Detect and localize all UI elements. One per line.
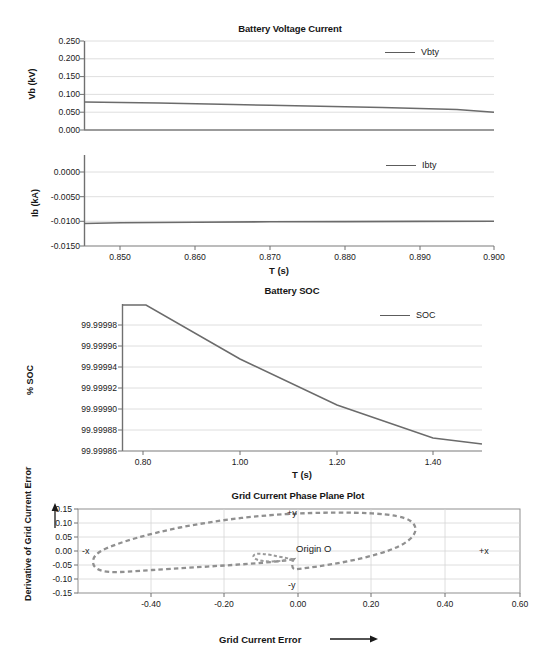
legend-label: Vbty — [421, 47, 439, 57]
x-axis-arrow — [330, 636, 378, 643]
y-tick: 99.99988 — [55, 425, 117, 435]
x-tick: 0.860 — [175, 252, 215, 262]
y-tick: 0.100 — [40, 89, 80, 99]
y-tick: 99.99994 — [55, 362, 117, 372]
chart-title: Grid Current Phase Plane Plot — [198, 490, 398, 501]
y-tick: 99.99986 — [55, 446, 117, 456]
legend-ibty: Ibty — [386, 160, 437, 170]
legend-label: SOC — [416, 310, 436, 320]
y-tick: 99.99996 — [55, 341, 117, 351]
x-tick: 0.890 — [400, 252, 440, 262]
chart-title: Battery Voltage Current — [190, 23, 390, 34]
legend-line-swatch — [380, 315, 410, 316]
phase-trajectory-inner — [253, 554, 293, 562]
x-tick: -0.20 — [204, 599, 244, 609]
legend-line-swatch — [386, 165, 416, 166]
y-tick: 0.15 — [36, 504, 72, 514]
x-tick: 0.40 — [425, 599, 465, 609]
annotation-origin: Origin O — [296, 543, 331, 554]
y-tick: 0.00 — [36, 546, 72, 556]
x-tick: 1.40 — [413, 457, 453, 467]
legend-vbty: Vbty — [385, 47, 439, 57]
y-tick: -0.05 — [33, 560, 72, 570]
x-tick: 1.00 — [220, 457, 260, 467]
annotation-neg-x: -x — [82, 546, 90, 556]
figure-page: Battery Voltage Current Vb (kV) 0.250 0.… — [0, 0, 534, 659]
y-tick: 0.150 — [40, 71, 80, 81]
x-tick: 0.880 — [325, 252, 365, 262]
y-tick: 99.99998 — [55, 320, 117, 330]
legend-soc: SOC — [380, 310, 436, 320]
y-tick: -0.10 — [33, 574, 72, 584]
x-tick: -0.40 — [131, 599, 171, 609]
x-tick: 1.20 — [317, 457, 357, 467]
y-axis-title: % SOC — [25, 345, 35, 415]
y-tick: 0.0000 — [34, 167, 80, 177]
phase-trajectory-outer — [93, 513, 416, 573]
x-axis-title: Grid Current Error — [219, 634, 329, 645]
y-tick: 0.250 — [40, 36, 80, 46]
annotation-pos-y: +y — [287, 508, 297, 518]
x-axis-title: T (s) — [272, 469, 332, 480]
y-tick: -0.0100 — [34, 216, 80, 226]
x-tick: 0.80 — [123, 457, 163, 467]
y-tick: 99.99990 — [55, 404, 117, 414]
y-axis-title: Derivative of Grid Current Error — [23, 466, 33, 601]
x-tick: 0.00 — [278, 599, 318, 609]
x-tick: 0.20 — [351, 599, 391, 609]
y-tick: 0.10 — [36, 518, 72, 528]
y-axis-title-group: Derivative of Grid Current Error — [17, 491, 35, 601]
legend-label: Ibty — [422, 160, 437, 170]
x-tick: 0.900 — [474, 252, 514, 262]
annotation-pos-x: +x — [479, 546, 489, 556]
y-tick: 99.99992 — [55, 383, 117, 393]
x-tick: 0.850 — [100, 252, 140, 262]
y-tick: 0.200 — [40, 53, 80, 63]
x-tick: 0.870 — [250, 252, 290, 262]
y-tick: -0.15 — [33, 588, 72, 598]
x-tick: 0.60 — [500, 599, 534, 609]
annotation-neg-y: -y — [288, 580, 296, 590]
x-axis-title: T (s) — [249, 265, 309, 276]
y-axis-title: Vb (kV) — [27, 49, 37, 119]
y-tick: -0.0050 — [34, 192, 80, 202]
y-tick: 0.050 — [40, 107, 80, 117]
y-tick: -0.0150 — [34, 241, 80, 251]
legend-line-swatch — [385, 52, 415, 53]
y-tick: 0.000 — [40, 125, 80, 135]
chart-title: Battery SOC — [222, 285, 362, 296]
y-tick: 0.05 — [36, 532, 72, 542]
